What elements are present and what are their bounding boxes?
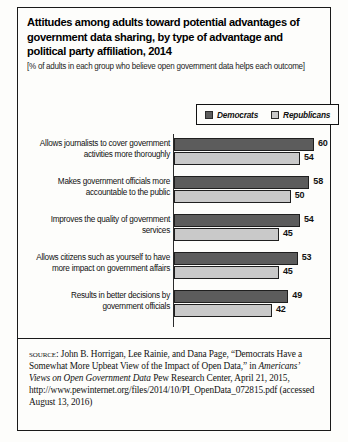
bar-democrats	[174, 290, 288, 303]
legend-swatch-icon	[205, 111, 213, 119]
bar-row: 54	[174, 152, 334, 165]
category-label-line: Results in better decisions by	[28, 290, 170, 301]
bar-group: Makes government officials moreaccountab…	[18, 176, 330, 207]
category-label: Results in better decisions bygovernment…	[28, 290, 170, 311]
bar-republicans	[174, 152, 300, 165]
category-label-line: Makes government officials more	[28, 176, 170, 187]
figure-page: Attitudes among adults toward potential …	[0, 0, 348, 442]
bar-value-label: 49	[292, 290, 302, 300]
legend-label: Republicans	[283, 110, 330, 120]
chart-plot-area: Allows journalists to cover governmentac…	[18, 134, 330, 327]
category-label-line: more impact on government affairs	[28, 263, 170, 274]
category-label: Allows citizens such as yourself to have…	[28, 252, 170, 273]
bar-group: Results in better decisions bygovernment…	[18, 290, 330, 321]
page-title: Attitudes among adults toward potential …	[27, 15, 308, 59]
category-label-line: Improves the quality of government	[28, 214, 170, 225]
category-label-line: Allows journalists to cover government	[28, 138, 170, 149]
bar-row: 45	[174, 266, 334, 279]
bar-value-label: 60	[318, 138, 328, 148]
bar-row: 54	[174, 214, 334, 227]
bar-republicans	[174, 190, 291, 203]
category-label-line: services	[28, 225, 170, 236]
bar-group: Allows citizens such as yourself to have…	[18, 252, 330, 283]
bar-value-label: 42	[276, 304, 286, 314]
bar-row: 58	[174, 176, 334, 189]
bar-value-label: 53	[302, 252, 312, 262]
bar-democrats	[174, 214, 300, 227]
bar-row: 50	[174, 190, 334, 203]
bar-group: Allows journalists to cover governmentac…	[18, 138, 330, 169]
category-label-line: accountable to the public	[28, 187, 170, 198]
bar-democrats	[174, 138, 314, 151]
bar-republicans	[174, 228, 279, 241]
category-label-line: government officials	[28, 301, 170, 312]
bar-group: Improves the quality of governmentservic…	[18, 214, 330, 245]
chart-subtitle: [% of adults in each group who believe o…	[27, 61, 315, 72]
bar-row: 42	[174, 304, 334, 317]
category-label: Makes government officials moreaccountab…	[28, 176, 170, 197]
bar-value-label: 45	[283, 228, 293, 238]
chart-legend: DemocratsRepublicans	[196, 104, 339, 125]
source-divider	[18, 338, 330, 339]
bar-row: 60	[174, 138, 334, 151]
legend-swatch-icon	[271, 111, 279, 119]
bar-value-label: 50	[295, 190, 305, 200]
category-label-line: activities more thoroughly	[28, 149, 170, 160]
bar-democrats	[174, 176, 309, 189]
bar-value-label: 54	[304, 214, 314, 224]
bar-republicans	[174, 304, 272, 317]
source-note: source: John B. Horrigan, Lee Rainie, an…	[29, 348, 321, 409]
source-kicker: source:	[29, 348, 59, 359]
bar-democrats	[174, 252, 298, 265]
legend-item-democrats: Democrats	[205, 110, 258, 120]
category-label: Improves the quality of governmentservic…	[28, 214, 170, 235]
bar-republicans	[174, 266, 279, 279]
bar-row: 53	[174, 252, 334, 265]
category-label-line: Allows citizens such as yourself to have	[28, 252, 170, 263]
bar-value-label: 45	[283, 266, 293, 276]
bar-value-label: 58	[313, 176, 323, 186]
bar-row: 49	[174, 290, 334, 303]
bar-row: 45	[174, 228, 334, 241]
category-label: Allows journalists to cover governmentac…	[28, 138, 170, 159]
figure-border: Attitudes among adults toward potential …	[17, 7, 331, 431]
bar-value-label: 54	[304, 152, 314, 162]
legend-item-republicans: Republicans	[271, 110, 330, 120]
legend-label: Democrats	[217, 110, 258, 120]
